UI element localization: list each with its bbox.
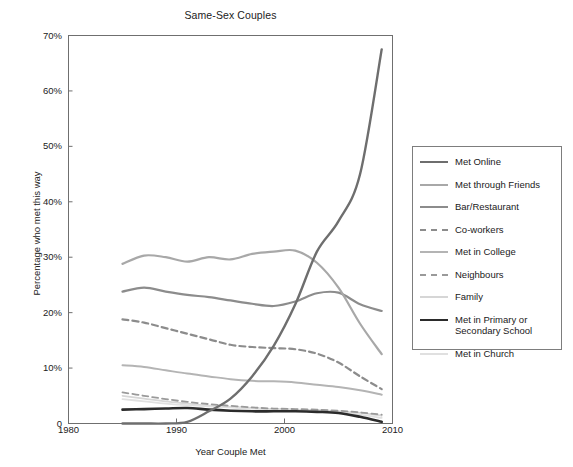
- y-tick-label: 70%: [22, 31, 62, 41]
- legend-item[interactable]: Met through Friends: [419, 179, 561, 191]
- series-line: [123, 49, 382, 423]
- legend-swatch-icon: [419, 291, 449, 303]
- x-tick-label: 1990: [152, 424, 202, 435]
- series-line: [123, 288, 382, 311]
- chart-legend: Met OnlineMet through FriendsBar/Restaur…: [412, 146, 562, 350]
- legend-item[interactable]: Bar/Restaurant: [419, 201, 561, 213]
- legend-item[interactable]: Met in Primary or Secondary School: [419, 314, 561, 337]
- y-axis-tick-labels: 010%20%30%40%50%60%70%: [18, 0, 62, 467]
- legend-label: Met in Primary or Secondary School: [455, 314, 532, 337]
- x-tick-label: 2000: [260, 424, 310, 435]
- legend-item[interactable]: Neighbours: [419, 269, 561, 281]
- series-line: [123, 408, 382, 422]
- x-axis-label: Year Couple Met: [68, 446, 393, 457]
- series-line: [123, 319, 382, 389]
- chart-title: Same-Sex Couples: [68, 9, 393, 21]
- legend-item[interactable]: Met in College: [419, 246, 561, 258]
- legend-label: Met in College: [455, 246, 516, 258]
- legend-label: Co-workers: [455, 224, 504, 236]
- legend-label: Met Online: [455, 156, 501, 168]
- legend-swatch-icon: [419, 179, 449, 191]
- legend-swatch-icon: [419, 224, 449, 236]
- y-tick-label: 30%: [22, 252, 62, 262]
- legend-swatch-icon: [419, 246, 449, 258]
- legend-label: Bar/Restaurant: [455, 201, 519, 213]
- y-tick-label: 10%: [22, 363, 62, 373]
- legend-label: Neighbours: [455, 269, 504, 281]
- chart-figure: Same-Sex Couples Percentage who met this…: [0, 0, 573, 467]
- series-line: [123, 365, 382, 394]
- series-line: [123, 250, 382, 354]
- x-tick-label: 1980: [44, 424, 94, 435]
- legend-item[interactable]: Met in Church: [419, 348, 561, 360]
- legend-swatch-icon: [419, 269, 449, 281]
- y-tick-label: 60%: [22, 86, 62, 96]
- legend-item[interactable]: Family: [419, 291, 561, 303]
- plot-frame: [69, 36, 393, 424]
- y-tick-label: 50%: [22, 141, 62, 151]
- legend-label: Family: [455, 291, 483, 303]
- legend-item[interactable]: Met Online: [419, 156, 561, 168]
- legend-swatch-icon: [419, 201, 449, 213]
- y-tick-label: 20%: [22, 308, 62, 318]
- y-tick-label: 40%: [22, 197, 62, 207]
- legend-label: Met in Church: [455, 348, 514, 360]
- legend-label: Met through Friends: [455, 179, 540, 191]
- legend-swatch-icon: [419, 314, 449, 326]
- legend-swatch-icon: [419, 348, 449, 360]
- x-tick-label: 2010: [368, 424, 418, 435]
- legend-item[interactable]: Co-workers: [419, 224, 561, 236]
- legend-swatch-icon: [419, 156, 449, 168]
